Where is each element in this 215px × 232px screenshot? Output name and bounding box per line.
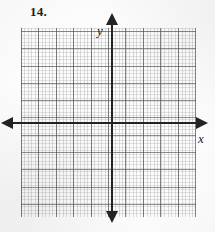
y-axis-arrow-down-icon	[106, 211, 118, 223]
x-axis-line	[12, 122, 200, 124]
x-axis-label: x	[198, 132, 204, 145]
worksheet-problem-14: 14. y x	[0, 0, 215, 232]
y-axis-label: y	[97, 24, 103, 37]
x-axis-arrow-right-icon	[196, 117, 208, 129]
x-axis-arrow-left-icon	[1, 117, 13, 129]
y-axis-arrow-up-icon	[106, 13, 118, 25]
coordinate-grid[interactable]: y x	[21, 28, 196, 217]
y-axis-line	[111, 24, 113, 214]
problem-number-label: 14.	[30, 4, 47, 19]
